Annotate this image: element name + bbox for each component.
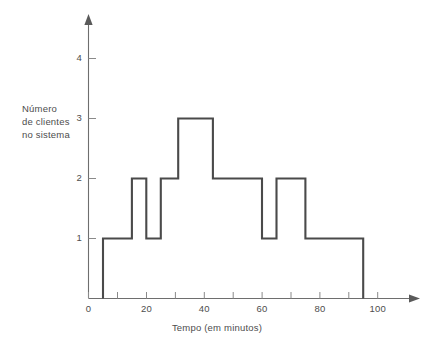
- x-axis-arrow-icon: [409, 294, 420, 302]
- y-axis-ticks: [89, 59, 97, 239]
- x-tick-label-20: 20: [132, 303, 162, 314]
- y-tick-label-4: 4: [62, 52, 82, 63]
- y-tick-label-2: 2: [62, 172, 82, 183]
- y-axis-title: Número de clientes no sistema: [22, 102, 82, 141]
- y-axis-arrow-icon: [84, 14, 92, 25]
- x-axis-title: Tempo (em minutos): [137, 322, 297, 333]
- x-tick-label-80: 80: [305, 303, 335, 314]
- y-axis-title-line-2: de clientes: [22, 115, 82, 128]
- y-axis-title-line-3: no sistema: [22, 128, 82, 141]
- step-series-path: [103, 119, 363, 299]
- x-axis-ticks: [89, 292, 378, 299]
- y-axis-title-line-1: Número: [22, 102, 82, 115]
- y-tick-label-1: 1: [62, 232, 82, 243]
- x-tick-label-60: 60: [247, 303, 277, 314]
- x-tick-label-40: 40: [189, 303, 219, 314]
- chart-container: 0 20 40 60 80 100 1 2 3 4 Número de clie…: [0, 0, 434, 349]
- x-tick-label-0: 0: [74, 303, 104, 314]
- x-tick-label-100: 100: [363, 303, 393, 314]
